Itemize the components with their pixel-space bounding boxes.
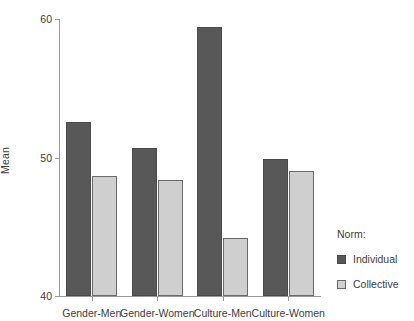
- legend-title: Norm:: [337, 228, 414, 240]
- x-tick-mark: [157, 296, 158, 301]
- x-tick-label: Gender-Men: [62, 307, 121, 319]
- y-tick-label: 60: [40, 13, 52, 25]
- x-tick-mark: [288, 296, 289, 301]
- plot-area: 405060 Gender-MenGender-WomenCulture-Men…: [59, 19, 321, 296]
- bar-chart: Mean 405060 Gender-MenGender-WomenCultur…: [0, 0, 414, 321]
- legend-item-label: Individual: [353, 253, 397, 265]
- y-tick-mark: [55, 158, 60, 159]
- bar: [289, 171, 314, 296]
- bar: [263, 159, 288, 296]
- bar: [132, 148, 157, 296]
- x-axis-line: [59, 296, 321, 297]
- bar: [223, 238, 248, 296]
- y-axis-title-label: Mean: [0, 147, 11, 174]
- collective-swatch: [337, 280, 346, 289]
- individual-swatch: [337, 255, 346, 264]
- y-tick-label: 40: [40, 290, 52, 302]
- legend-item-label: Collective: [353, 278, 399, 290]
- x-tick-label: Gender-Women: [120, 307, 195, 319]
- x-tick-label: Culture-Women: [252, 307, 325, 319]
- y-axis-title: Mean: [0, 0, 22, 321]
- bar: [92, 176, 117, 296]
- bar: [158, 180, 183, 296]
- x-tick-mark: [92, 296, 93, 301]
- legend-item[interactable]: Collective: [337, 278, 414, 290]
- legend: Norm: IndividualCollective: [337, 228, 414, 303]
- y-tick-mark: [55, 296, 60, 297]
- legend-entries: IndividualCollective: [337, 253, 414, 290]
- bar: [66, 122, 91, 297]
- x-tick-mark: [223, 296, 224, 301]
- y-tick-mark: [55, 19, 60, 20]
- x-tick-label: Culture-Men: [194, 307, 252, 319]
- y-tick-label: 50: [40, 152, 52, 164]
- bar: [197, 27, 222, 296]
- legend-item[interactable]: Individual: [337, 253, 414, 265]
